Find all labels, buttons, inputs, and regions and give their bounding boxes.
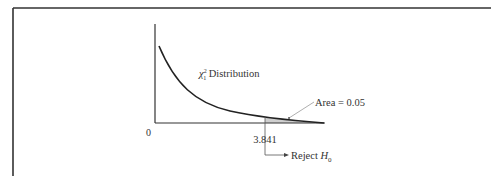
distribution-label: χ21Distribution bbox=[198, 68, 260, 81]
reject-h0-label: Reject H0 bbox=[291, 150, 332, 164]
area-label: Area = 0.05 bbox=[315, 97, 365, 108]
area-leader-line bbox=[289, 102, 314, 118]
origin-label: 0 bbox=[146, 127, 151, 138]
critical-value-label: 3.841 bbox=[253, 134, 277, 145]
chi-square-figure: χ21Distribution Area = 0.05 0 3.841 Reje… bbox=[0, 0, 491, 176]
area-leader-dot bbox=[288, 117, 290, 119]
reject-arrow-head bbox=[284, 153, 289, 157]
